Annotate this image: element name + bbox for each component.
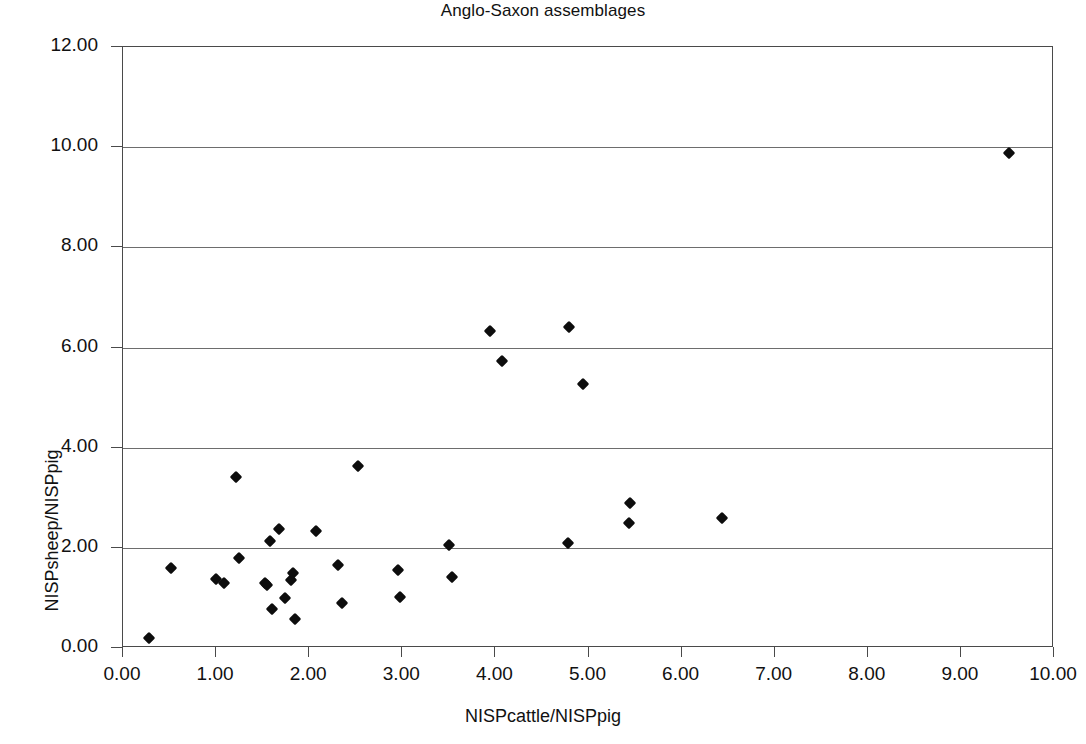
x-tick-label: 6.00: [636, 663, 726, 685]
data-point: [622, 516, 635, 529]
x-tick-label: 2.00: [263, 663, 353, 685]
data-point: [624, 496, 637, 509]
data-point: [496, 354, 509, 367]
x-tick-label: 8.00: [822, 663, 912, 685]
x-axis-title: NISPcattle/NISPpig: [0, 706, 1086, 727]
data-point: [279, 592, 292, 605]
x-tick-label: 0.00: [77, 663, 167, 685]
y-tick-mark: [111, 347, 122, 348]
data-point: [273, 523, 286, 536]
x-tick-mark: [122, 647, 123, 657]
x-tick-mark: [774, 647, 775, 657]
x-tick-mark: [401, 647, 402, 657]
data-point: [233, 551, 246, 564]
data-point: [1003, 147, 1016, 160]
data-point: [563, 321, 576, 334]
data-point: [391, 564, 404, 577]
gridline-horizontal: [123, 147, 1052, 148]
gridline-horizontal: [123, 348, 1052, 349]
data-point: [143, 632, 156, 645]
data-point: [264, 535, 277, 548]
data-point: [335, 597, 348, 610]
y-axis-title: NISPsheep/NISPpig: [42, 401, 63, 661]
x-tick-mark: [867, 647, 868, 657]
data-point: [715, 511, 728, 524]
x-tick-label: 1.00: [170, 663, 260, 685]
data-point: [445, 571, 458, 584]
data-point: [351, 460, 364, 473]
data-point: [483, 325, 496, 338]
y-tick-mark: [111, 547, 122, 548]
y-tick-mark: [111, 447, 122, 448]
data-point: [577, 377, 590, 390]
y-tick-label: 12.00: [12, 34, 98, 56]
x-tick-label: 5.00: [543, 663, 633, 685]
x-tick-mark: [215, 647, 216, 657]
scatter-chart-figure: Anglo-Saxon assemblages 0.002.004.006.00…: [0, 0, 1086, 744]
gridline-horizontal: [123, 548, 1052, 549]
x-tick-mark: [681, 647, 682, 657]
x-tick-label: 10.00: [1008, 663, 1086, 685]
x-tick-mark: [588, 647, 589, 657]
x-tick-label: 9.00: [915, 663, 1005, 685]
data-point: [229, 470, 242, 483]
data-point: [309, 524, 322, 537]
x-tick-mark: [960, 647, 961, 657]
data-point: [332, 559, 345, 572]
plot-area: [122, 46, 1053, 647]
x-tick-mark: [494, 647, 495, 657]
x-tick-label: 7.00: [729, 663, 819, 685]
data-point: [393, 591, 406, 604]
chart-title: Anglo-Saxon assemblages: [0, 1, 1086, 21]
x-tick-mark: [1053, 647, 1054, 657]
y-axis-title-wrapper: NISPsheep/NISPpig: [20, 220, 44, 480]
data-point: [261, 579, 274, 592]
y-tick-label: 10.00: [12, 134, 98, 156]
data-point: [289, 613, 302, 626]
data-point: [165, 561, 178, 574]
data-point: [266, 603, 279, 616]
y-tick-mark: [111, 146, 122, 147]
x-tick-mark: [308, 647, 309, 657]
gridline-horizontal: [123, 448, 1052, 449]
x-tick-label: 3.00: [356, 663, 446, 685]
data-point: [442, 538, 455, 551]
y-tick-mark: [111, 46, 122, 47]
y-tick-mark: [111, 246, 122, 247]
x-tick-label: 4.00: [449, 663, 539, 685]
gridline-horizontal: [123, 247, 1052, 248]
y-tick-mark: [111, 647, 122, 648]
